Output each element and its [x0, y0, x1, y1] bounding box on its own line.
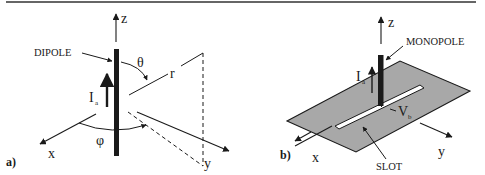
z-axis-b: z	[381, 15, 394, 44]
current-symbol: I	[356, 69, 361, 84]
current-subscript: a	[95, 99, 99, 107]
dipole-element	[114, 49, 119, 156]
phi-arc	[79, 123, 146, 130]
panel-b-monopole-slot: z MONOPOLE I a V b	[280, 15, 470, 172]
projection-xy	[128, 112, 203, 166]
phi-label: φ	[96, 133, 104, 148]
panel-b-label: b)	[280, 148, 291, 162]
monopole-label: MONOPOLE	[406, 36, 464, 47]
monopole-pointer	[386, 46, 403, 60]
panel-a-label: a)	[6, 155, 16, 169]
slot-label: SLOT	[376, 161, 403, 172]
x-axis-label: x	[48, 146, 55, 161]
radius-line-outer	[181, 53, 203, 66]
theta-label: θ	[137, 55, 144, 70]
current-arrow-a: I a	[89, 74, 107, 107]
radius-label: r	[170, 66, 175, 81]
z-axis-a: z	[116, 11, 127, 42]
y-axis-label: y	[438, 144, 445, 159]
dipole-label: DIPOLE	[34, 47, 71, 58]
x-axis-a: x	[40, 114, 96, 161]
y-axis-a: y	[137, 112, 229, 171]
x-axis-label: x	[312, 150, 319, 165]
monopole-element	[378, 55, 384, 106]
y-axis-b: y	[420, 123, 452, 159]
y-axis-label: y	[204, 156, 211, 171]
current-symbol: I	[89, 90, 94, 105]
panel-a-dipole: z DIPOLE I a θ r	[6, 11, 229, 171]
antenna-figure: z DIPOLE I a θ r	[0, 0, 485, 175]
dipole-pointer	[82, 53, 112, 61]
voltage-symbol: V	[398, 104, 408, 119]
z-axis-label: z	[388, 15, 394, 30]
voltage-subscript: b	[408, 113, 412, 121]
z-axis-label: z	[121, 11, 127, 26]
radius-line-inner	[129, 74, 168, 95]
